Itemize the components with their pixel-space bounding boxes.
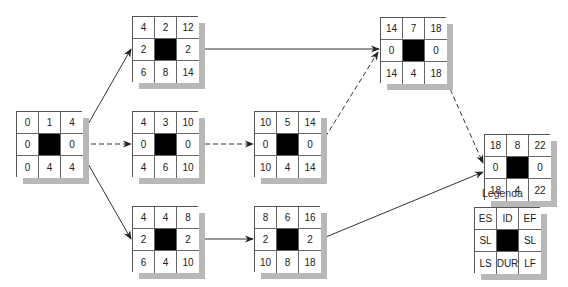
early-start: 0	[17, 112, 39, 134]
node-center-block	[155, 229, 177, 251]
early-finish: 4	[61, 112, 83, 134]
legend-title: Legenda	[482, 187, 523, 199]
legend-activity-id: ID	[497, 208, 519, 230]
early-finish: 18	[425, 18, 447, 40]
node-center-block	[403, 40, 425, 62]
activity-node-1: 0 1 4 0 0 0 4 4	[16, 111, 82, 177]
activity-id: 7	[403, 18, 425, 40]
activity-id: 6	[277, 207, 299, 229]
legend-early-finish: EF	[519, 208, 541, 230]
duration: 4	[403, 62, 425, 84]
duration: 4	[39, 156, 61, 178]
slack-right: 2	[177, 39, 199, 61]
node-grid: 8 6 16 2 2 10 8 18	[254, 206, 320, 272]
activity-node-6: 8 6 16 2 2 10 8 18	[254, 206, 320, 272]
late-start: 6	[133, 251, 155, 273]
late-finish: 22	[529, 179, 551, 201]
edge-n6-n8	[321, 172, 483, 239]
legend-late-start: LS	[475, 252, 497, 274]
legend-slack-left: SL	[475, 230, 497, 252]
slack-left: 0	[255, 134, 277, 156]
node-center-block	[39, 134, 61, 156]
node-grid: 4 4 8 2 2 6 4 10	[132, 206, 198, 272]
legend-center-block	[497, 230, 519, 252]
late-start: 14	[381, 62, 403, 84]
late-start: 4	[133, 156, 155, 178]
slack-right: 0	[425, 40, 447, 62]
early-finish: 12	[177, 17, 199, 39]
activity-id: 5	[277, 112, 299, 134]
node-grid: 10 5 14 0 0 10 4 14	[254, 111, 320, 177]
late-finish: 4	[61, 156, 83, 178]
slack-left: 2	[133, 229, 155, 251]
legend-node: ES ID EF SL SL LS DUR LF	[474, 207, 540, 273]
late-finish: 18	[299, 251, 321, 273]
late-finish: 14	[177, 61, 199, 83]
activity-node-3: 4 3 10 0 0 4 6 10	[132, 111, 198, 177]
activity-id: 3	[155, 112, 177, 134]
late-finish: 10	[177, 251, 199, 273]
legend-slack-right: SL	[519, 230, 541, 252]
activity-id: 4	[155, 207, 177, 229]
duration: 4	[277, 156, 299, 178]
legend-duration: DUR	[497, 252, 519, 274]
early-finish: 10	[177, 112, 199, 134]
early-start: 8	[255, 207, 277, 229]
slack-left: 2	[133, 39, 155, 61]
node-grid: 4 3 10 0 0 4 6 10	[132, 111, 198, 177]
node-center-block	[155, 134, 177, 156]
node-grid: 14 7 18 0 0 14 4 18	[380, 17, 446, 83]
early-start: 18	[485, 135, 507, 157]
duration: 8	[155, 61, 177, 83]
legend-early-start: ES	[475, 208, 497, 230]
activity-id: 2	[155, 17, 177, 39]
early-start: 14	[381, 18, 403, 40]
activity-node-2: 4 2 12 2 2 6 8 14	[132, 16, 198, 82]
slack-right: 0	[177, 134, 199, 156]
early-start: 10	[255, 112, 277, 134]
early-start: 4	[133, 207, 155, 229]
slack-right: 0	[529, 157, 551, 179]
legend-late-finish: LF	[519, 252, 541, 274]
legend-grid: ES ID EF SL SL LS DUR LF	[474, 207, 540, 273]
node-center-block	[277, 134, 299, 156]
late-finish: 18	[425, 62, 447, 84]
late-start: 6	[133, 61, 155, 83]
early-finish: 14	[299, 112, 321, 134]
slack-left: 0	[17, 134, 39, 156]
node-center-block	[507, 157, 529, 179]
slack-right: 0	[61, 134, 83, 156]
late-start: 10	[255, 156, 277, 178]
activity-node-7: 14 7 18 0 0 14 4 18	[380, 17, 446, 83]
late-finish: 10	[177, 156, 199, 178]
node-grid: 4 2 12 2 2 6 8 14	[132, 16, 198, 82]
late-start: 10	[255, 251, 277, 273]
early-start: 4	[133, 112, 155, 134]
activity-id: 1	[39, 112, 61, 134]
activity-node-4: 4 4 8 2 2 6 4 10	[132, 206, 198, 272]
early-finish: 22	[529, 135, 551, 157]
slack-left: 0	[133, 134, 155, 156]
slack-left: 2	[255, 229, 277, 251]
slack-left: 0	[485, 157, 507, 179]
node-grid: 0 1 4 0 0 0 4 4	[16, 111, 82, 177]
slack-right: 2	[177, 229, 199, 251]
node-center-block	[277, 229, 299, 251]
duration: 4	[155, 251, 177, 273]
edge-n5-n7	[321, 52, 378, 144]
late-start: 0	[17, 156, 39, 178]
early-finish: 16	[299, 207, 321, 229]
activity-id: 8	[507, 135, 529, 157]
duration: 6	[155, 156, 177, 178]
node-center-block	[155, 39, 177, 61]
slack-left: 0	[381, 40, 403, 62]
early-start: 4	[133, 17, 155, 39]
slack-right: 0	[299, 134, 321, 156]
late-finish: 14	[299, 156, 321, 178]
edge-n1-n2	[83, 49, 131, 133]
early-finish: 8	[177, 207, 199, 229]
activity-node-5: 10 5 14 0 0 10 4 14	[254, 111, 320, 177]
duration: 8	[277, 251, 299, 273]
edge-n7-n8	[447, 82, 483, 163]
slack-right: 2	[299, 229, 321, 251]
